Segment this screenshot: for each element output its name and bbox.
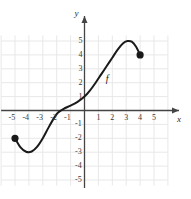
axes (1, 16, 179, 188)
y-tick-label-neg5: -5 (75, 176, 82, 184)
y-tick-label-4: 4 (79, 51, 83, 59)
graph-canvas (0, 0, 191, 199)
y-tick-label-neg2: -2 (75, 134, 82, 142)
y-tick-label-neg3: -3 (75, 148, 82, 156)
function-graph-figure: -5-4-3-2-11234554321-1-2-3-4-5 y x f (0, 0, 191, 199)
y-tick-label-neg1: -1 (75, 120, 82, 128)
x-tick-label-neg5: -5 (9, 114, 16, 122)
y-axis-label: y (75, 9, 79, 18)
y-tick-label-neg4: -4 (75, 162, 82, 170)
curve-label-f: f (106, 74, 109, 84)
x-tick-label-3: 3 (124, 114, 128, 122)
y-tick-label-5: 5 (79, 37, 83, 45)
x-tick-label-neg1: -1 (64, 114, 71, 122)
x-axis-label: x (177, 115, 181, 124)
y-tick-label-1: 1 (79, 93, 83, 101)
y-tick-label-2: 2 (79, 79, 83, 87)
x-tick-label-5: 5 (152, 114, 156, 122)
y-tick-label-3: 3 (79, 65, 83, 73)
x-tick-label-2: 2 (110, 114, 114, 122)
x-tick-label-1: 1 (96, 114, 100, 122)
x-tick-label-4: 4 (138, 114, 142, 122)
x-tick-label-neg4: -4 (22, 114, 29, 122)
x-tick-label-neg2: -2 (50, 114, 57, 122)
x-tick-label-neg3: -3 (36, 114, 43, 122)
